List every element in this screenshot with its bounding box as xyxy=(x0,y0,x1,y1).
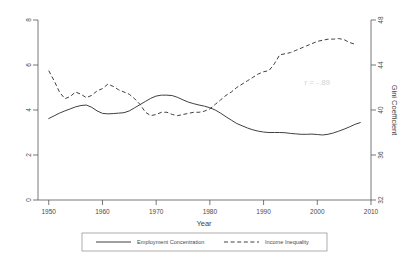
legend: Employment Concentration Income Inequali… xyxy=(82,233,327,251)
left-tick-label: 4 xyxy=(25,108,32,112)
legend-label-income-inequality: Income Inequality xyxy=(265,239,309,245)
right-tick-label: 44 xyxy=(377,61,384,69)
series-line-income-inequality xyxy=(49,39,355,116)
left-tick-label: 6 xyxy=(25,63,32,67)
x-tick-label: 2010 xyxy=(364,208,379,215)
annotation-layer: r = -.89 xyxy=(305,78,331,87)
left-tick-label: 0 xyxy=(25,198,32,202)
chart-canvas: 02468 3236404448 19501960197019801990200… xyxy=(0,0,409,260)
left-tick-label: 2 xyxy=(25,153,32,157)
right-axis-title: Gini Coefficient xyxy=(390,85,399,137)
x-tick-label: 1990 xyxy=(256,208,271,215)
x-tick-label: 1980 xyxy=(203,208,218,215)
chart-figure: 02468 3236404448 19501960197019801990200… xyxy=(0,0,409,260)
x-tick-label: 1950 xyxy=(42,208,57,215)
legend-label-employment-concentration: Employment Concentration xyxy=(137,239,204,245)
x-axis-ticks: 1950196019701980199020002010 xyxy=(42,200,379,215)
left-tick-label: 8 xyxy=(25,18,32,22)
x-axis-title: Year xyxy=(196,219,212,228)
right-tick-label: 36 xyxy=(377,151,384,159)
x-tick-label: 2000 xyxy=(310,208,325,215)
right-axis-ticks: 3236404448 xyxy=(371,16,384,204)
right-tick-label: 32 xyxy=(377,196,384,204)
x-tick-label: 1970 xyxy=(149,208,164,215)
correlation-annotation: r = -.89 xyxy=(305,78,331,87)
series-line-employment-concentration xyxy=(49,95,361,135)
right-tick-label: 48 xyxy=(377,16,384,24)
x-tick-label: 1960 xyxy=(95,208,110,215)
left-axis-ticks: 02468 xyxy=(25,18,38,202)
plot-area xyxy=(38,20,371,200)
right-tick-label: 40 xyxy=(377,106,384,114)
